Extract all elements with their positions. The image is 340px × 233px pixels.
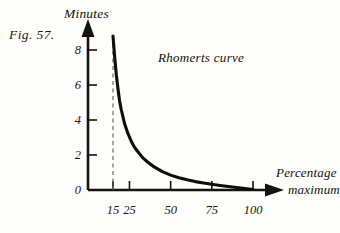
x-tick-label: 15 bbox=[107, 204, 120, 217]
x-tick-label: 25 bbox=[123, 204, 136, 217]
right-arrow-icon bbox=[265, 184, 284, 197]
curve-name-annotation: Rhomerts curve bbox=[158, 51, 244, 64]
x-tick-label: 50 bbox=[164, 204, 177, 217]
y-axis-ticks bbox=[88, 50, 97, 155]
up-arrow-icon bbox=[82, 19, 95, 37]
figure-number-label: Fig. 57. bbox=[9, 28, 55, 42]
y-axis-title: Minutes bbox=[64, 7, 109, 21]
y-tick-label: 8 bbox=[75, 44, 81, 57]
x-axis-title-line-2: maximum bbox=[288, 183, 340, 196]
x-axis-title-line-1: Percentage bbox=[276, 166, 337, 179]
y-tick-label: 2 bbox=[75, 149, 81, 162]
y-axis bbox=[82, 19, 95, 190]
x-axis bbox=[88, 184, 284, 197]
y-tick-label: 0 bbox=[75, 184, 81, 197]
x-tick-label: 75 bbox=[206, 204, 219, 217]
y-tick-label: 4 bbox=[75, 114, 81, 127]
y-tick-label: 6 bbox=[75, 79, 81, 92]
x-tick-label: 100 bbox=[244, 204, 263, 217]
